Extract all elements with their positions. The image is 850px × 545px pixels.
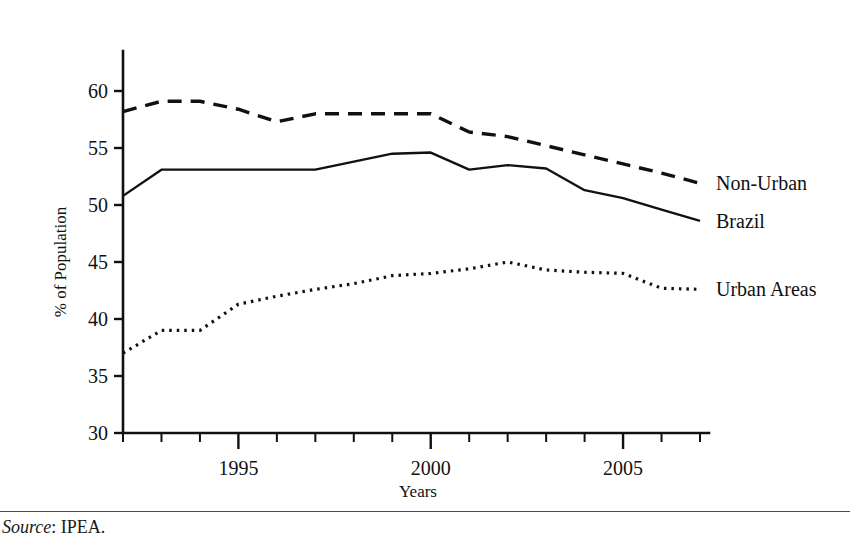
x-tick-label: 2005 — [603, 457, 643, 479]
source-divider — [0, 511, 850, 512]
series-label-layer: Non-UrbanBrazilUrban Areas — [716, 172, 817, 300]
series-label-non-urban: Non-Urban — [716, 172, 807, 194]
series-layer — [123, 101, 700, 353]
y-tick-label: 45 — [88, 251, 108, 273]
y-tick-label: 55 — [88, 137, 108, 159]
y-tick-label: 35 — [88, 365, 108, 387]
series-label-brazil: Brazil — [716, 210, 765, 232]
source-value: IPEA. — [61, 517, 106, 537]
x-axis-title: Years — [399, 482, 437, 501]
figure-container: 30354045505560199520002005 Non-UrbanBraz… — [0, 0, 850, 545]
series-line-brazil — [123, 153, 700, 221]
source-separator: : — [51, 517, 61, 537]
y-tick-label: 40 — [88, 308, 108, 330]
series-label-urban-areas: Urban Areas — [716, 278, 817, 300]
x-tick-label: 1995 — [218, 457, 258, 479]
y-tick-label: 60 — [88, 80, 108, 102]
x-tick-label: 2000 — [411, 457, 451, 479]
series-line-urban-areas — [123, 262, 700, 353]
y-axis-title: % of Population — [51, 206, 70, 317]
line-chart: 30354045505560199520002005 Non-UrbanBraz… — [0, 0, 850, 511]
axis-layer — [123, 51, 709, 433]
series-line-non-urban — [123, 101, 700, 183]
source-note: Source: IPEA. — [2, 517, 105, 538]
y-tick-label: 50 — [88, 194, 108, 216]
y-tick-label: 30 — [88, 422, 108, 444]
chart-axes — [123, 51, 709, 433]
tick-layer: 30354045505560199520002005 — [88, 80, 700, 479]
source-label: Source — [2, 517, 51, 537]
